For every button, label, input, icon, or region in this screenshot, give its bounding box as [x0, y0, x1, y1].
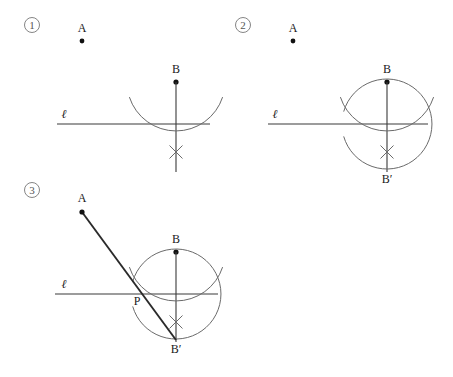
point-bprime-label: B′: [171, 342, 182, 356]
panel-number-label: 2: [240, 19, 246, 31]
point-p-label: P: [134, 294, 141, 308]
point-a-label: A: [289, 21, 298, 35]
point-b-label: B: [172, 232, 180, 246]
panel-3: 3 A ℓ B P B′: [25, 183, 223, 357]
line-l-label: ℓ: [273, 107, 278, 121]
point-b-label: B: [383, 62, 391, 76]
geometry-figure: 1 A B ℓ 2 A B ℓ B: [0, 0, 453, 377]
line-l-label: ℓ: [62, 107, 67, 121]
line-l-label: ℓ: [62, 277, 67, 291]
panel-1-number-badge: 1: [25, 18, 40, 33]
point-a-dot: [80, 39, 85, 44]
panel-2: 2 A B ℓ B′: [236, 18, 434, 187]
point-a-label: A: [78, 21, 87, 35]
segment-a-to-bprime: [82, 212, 176, 340]
point-a-dot: [79, 209, 84, 214]
panel-1: 1 A B ℓ: [25, 18, 223, 173]
point-b-label: B: [172, 62, 180, 76]
panel-3-number-badge: 3: [25, 183, 40, 198]
point-bprime-label: B′: [382, 172, 393, 186]
panel-2-number-badge: 2: [236, 18, 251, 33]
panel-number-label: 1: [29, 19, 35, 31]
point-a-dot: [291, 39, 296, 44]
panel-number-label: 3: [29, 184, 35, 196]
point-a-label: A: [78, 191, 87, 205]
